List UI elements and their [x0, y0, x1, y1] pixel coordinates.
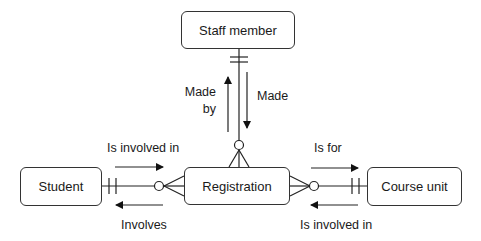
entity-label: Student	[39, 179, 84, 194]
label-course-backward: Is involved in	[300, 218, 372, 232]
entity-label: Staff member	[199, 23, 277, 38]
entity-registration: Registration	[184, 167, 290, 205]
label-made-by: Made by	[184, 85, 216, 116]
label-made: Made	[257, 89, 288, 103]
label-made-by-line1: Made	[184, 85, 216, 99]
entity-label: Course unit	[381, 179, 447, 194]
entity-staff-member: Staff member	[181, 11, 295, 49]
label-course-forward: Is for	[314, 141, 342, 155]
course-registration-connector	[290, 176, 367, 196]
student-registration-connector	[102, 176, 184, 196]
label-student-forward: Is involved in	[107, 141, 179, 155]
entity-label: Registration	[202, 179, 271, 194]
entity-student: Student	[20, 167, 102, 206]
entity-course-unit: Course unit	[367, 167, 462, 206]
staff-registration-connector	[229, 49, 249, 167]
label-made-by-line2: by	[184, 102, 216, 116]
label-student-backward: Involves	[121, 218, 167, 232]
